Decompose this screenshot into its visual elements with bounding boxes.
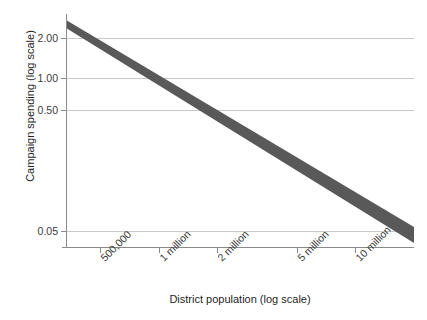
y-tick-mark-0.50	[61, 110, 66, 111]
chart-figure: 2.00 1.00 0.50 0.05 500,000 1 million 2 …	[0, 0, 427, 320]
regression-band	[66, 14, 414, 243]
y-axis-line	[66, 14, 67, 248]
x-axis-title: District population (log scale)	[66, 293, 414, 305]
plot-area	[66, 14, 414, 243]
confidence-band-polygon	[66, 20, 414, 243]
y-axis-title: Campaign spending (log scale)	[24, 16, 36, 196]
y-tick-label-0.50: 0.50	[38, 104, 58, 116]
y-tick-mark-2.00	[61, 38, 66, 39]
y-tick-mark-0.05	[61, 231, 66, 232]
y-tick-mark-1.00	[61, 78, 66, 79]
y-tick-label-0.05: 0.05	[38, 225, 58, 237]
y-tick-label-1.00: 1.00	[38, 72, 58, 84]
y-tick-label-2.00: 2.00	[38, 32, 58, 44]
